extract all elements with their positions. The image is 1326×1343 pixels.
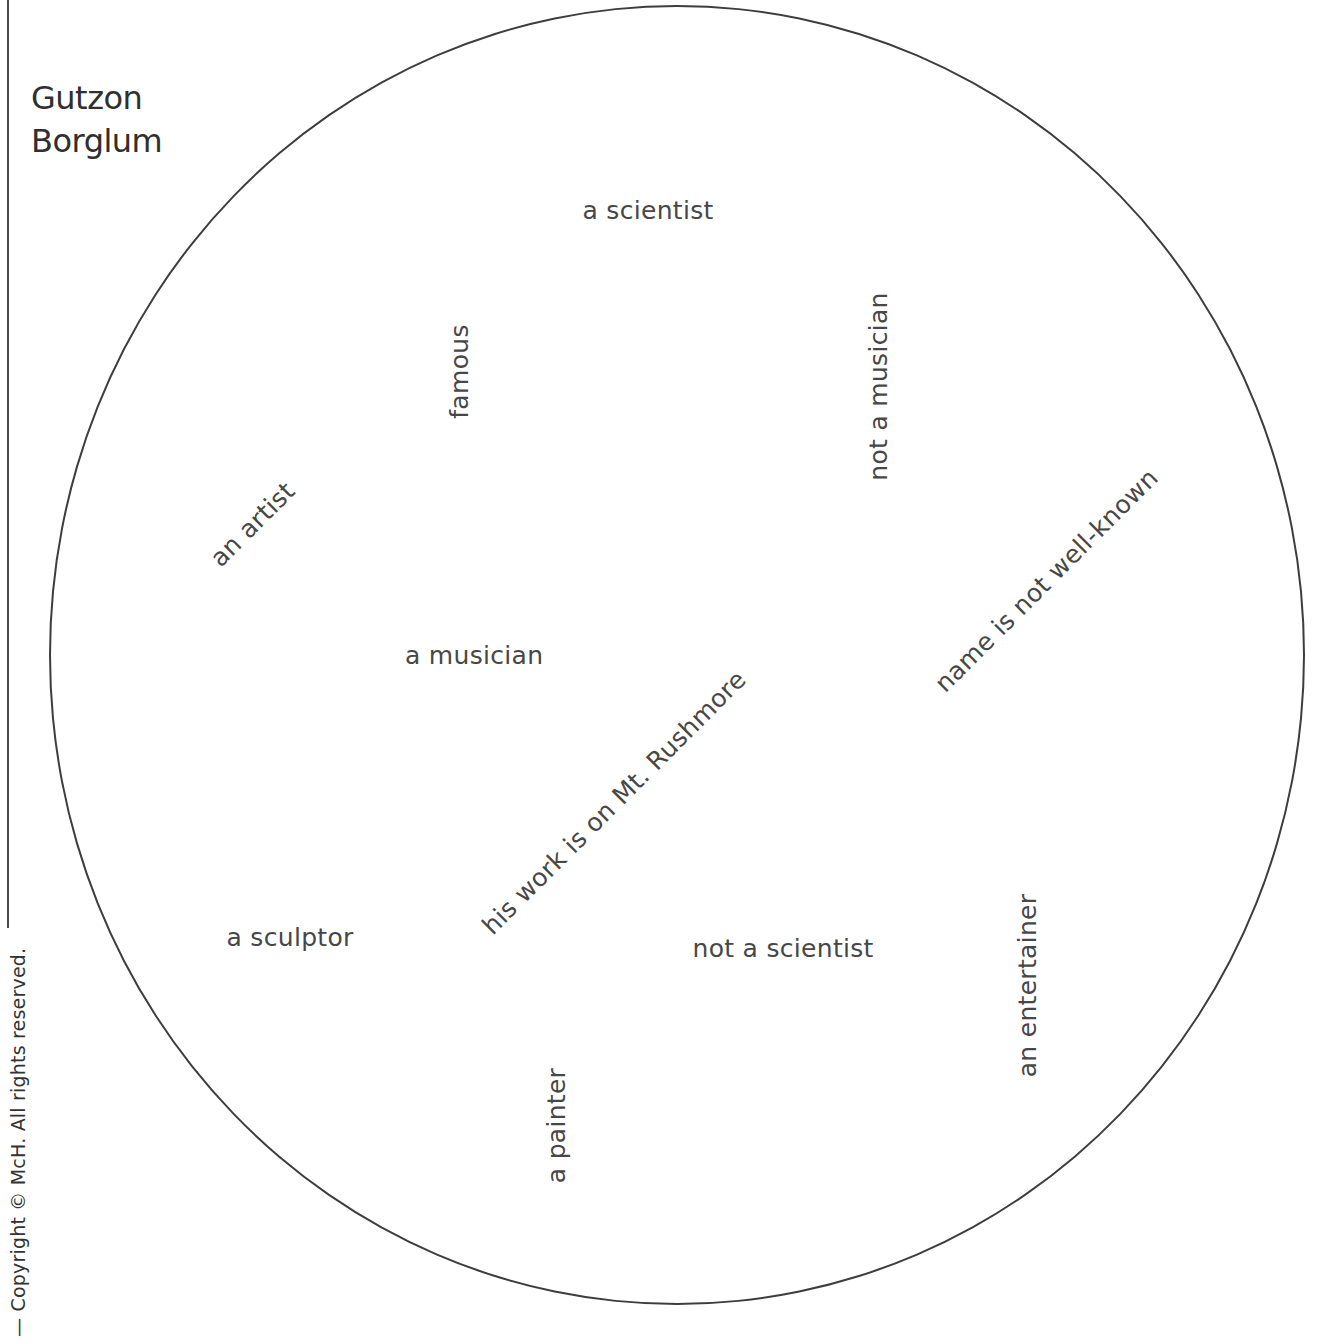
word-a-scientist: a scientist — [583, 198, 714, 223]
word-a-musician: a musician — [405, 643, 543, 668]
word-not-a-musician: not a musician — [866, 292, 891, 480]
word-famous: famous — [447, 324, 472, 418]
title-line-first-name: Gutzon — [31, 77, 162, 120]
word-a-sculptor: a sculptor — [227, 925, 354, 950]
title-line-last-name: Borglum — [31, 120, 162, 163]
word-not-a-scientist: not a scientist — [693, 936, 874, 961]
copyright-notice: — Copyright © McH. All rights reserved. — [9, 948, 28, 1337]
word-an-entertainer: an entertainer — [1015, 893, 1040, 1077]
margin-rule-line — [7, 0, 9, 928]
word-a-painter: a painter — [544, 1067, 569, 1182]
page-title: Gutzon Borglum — [31, 77, 162, 163]
